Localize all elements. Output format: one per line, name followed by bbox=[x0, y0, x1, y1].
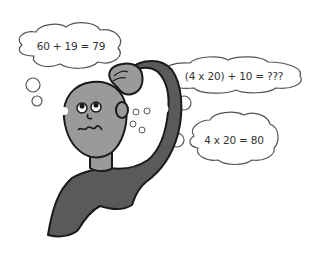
head bbox=[64, 82, 127, 158]
thought-bubble-1-text: 60 + 19 = 79 bbox=[37, 40, 106, 52]
person-figure bbox=[48, 61, 181, 236]
thought-bubble-2-text: (4 x 20) + 10 = ??? bbox=[185, 70, 283, 82]
illustration-canvas bbox=[0, 0, 325, 256]
thought-bubble-3-text: 4 x 20 = 80 bbox=[204, 134, 264, 146]
ear bbox=[116, 102, 128, 118]
thought-trail-1 bbox=[26, 78, 42, 106]
